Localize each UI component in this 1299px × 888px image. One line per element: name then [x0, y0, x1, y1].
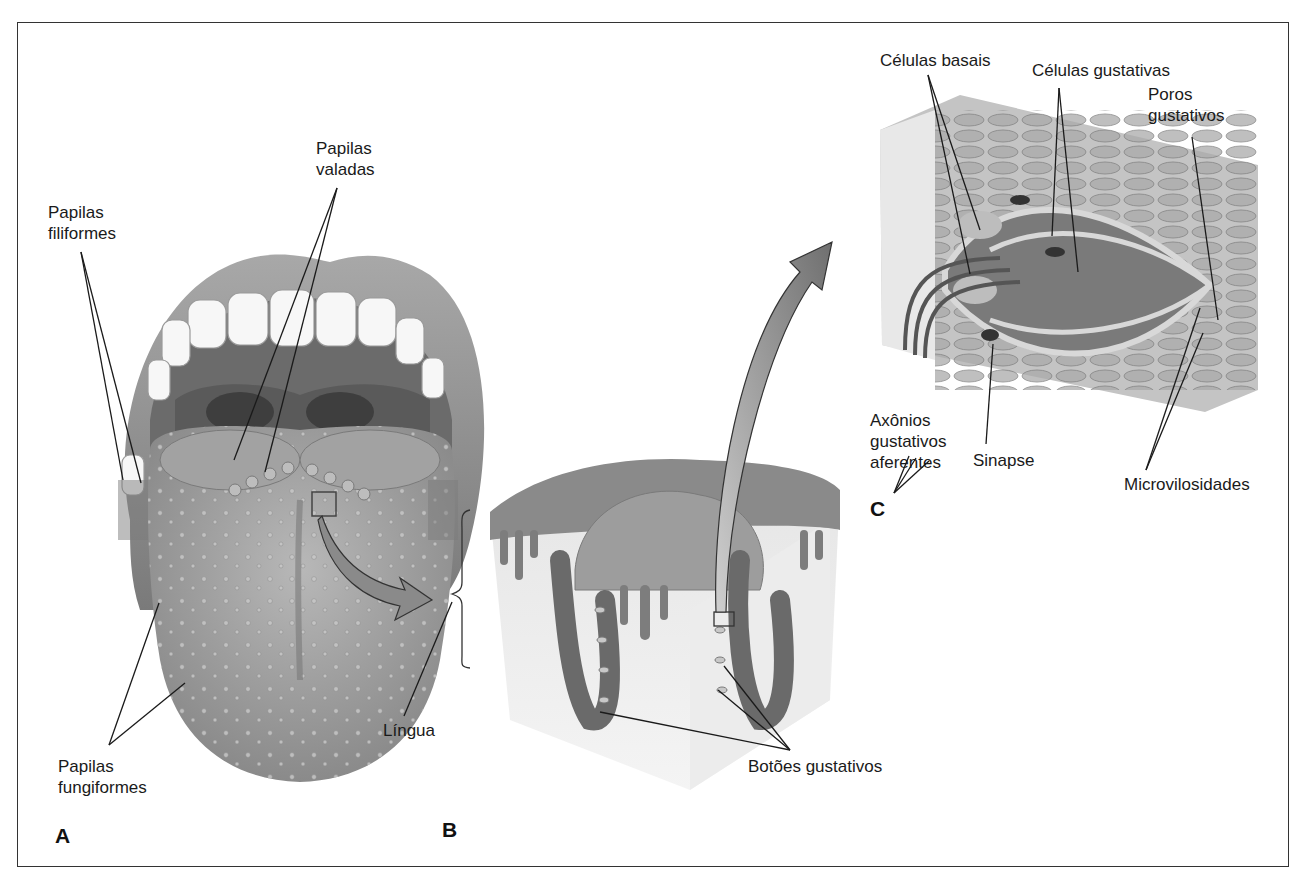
- label-celulas-basais: Células basais: [880, 50, 991, 71]
- mouth-tongue-illustration: [118, 254, 484, 782]
- panel-label-a: A: [55, 824, 70, 848]
- label-line: gustativos: [870, 431, 947, 452]
- label-papilas-valadas: Papilas valadas: [316, 138, 375, 180]
- label-papilas-filiformes: Papilas filiformes: [48, 202, 116, 244]
- label-line: Papilas: [58, 756, 147, 777]
- label-poros-gustativos: Poros gustativos: [1148, 84, 1225, 126]
- panel-label-b: B: [442, 818, 457, 842]
- label-papilas-fungiformes: Papilas fungiformes: [58, 756, 147, 798]
- label-line: Papilas: [48, 202, 116, 223]
- label-sinapse: Sinapse: [973, 450, 1034, 471]
- taste-anatomy-illustration: [0, 0, 1299, 888]
- label-line: Poros: [1148, 84, 1225, 105]
- panel-label-c: C: [870, 497, 885, 521]
- tissue-block-illustration: [490, 459, 840, 790]
- label-line: valadas: [316, 159, 375, 180]
- label-microvilosidades: Microvilosidades: [1124, 474, 1250, 495]
- label-line: Papilas: [316, 138, 375, 159]
- label-line: Axônios: [870, 410, 947, 431]
- label-line: aferentes: [870, 452, 947, 473]
- label-line: fungiformes: [58, 777, 147, 798]
- label-botoes-gustativos: Botões gustativos: [748, 756, 882, 777]
- label-axonios-gustativos-aferentes: Axônios gustativos aferentes: [870, 410, 947, 473]
- label-line: filiformes: [48, 223, 116, 244]
- taste-bud-illustration: [880, 95, 1258, 412]
- label-line: gustativos: [1148, 105, 1225, 126]
- label-celulas-gustativas: Células gustativas: [1032, 60, 1170, 81]
- label-lingua: Língua: [383, 720, 435, 741]
